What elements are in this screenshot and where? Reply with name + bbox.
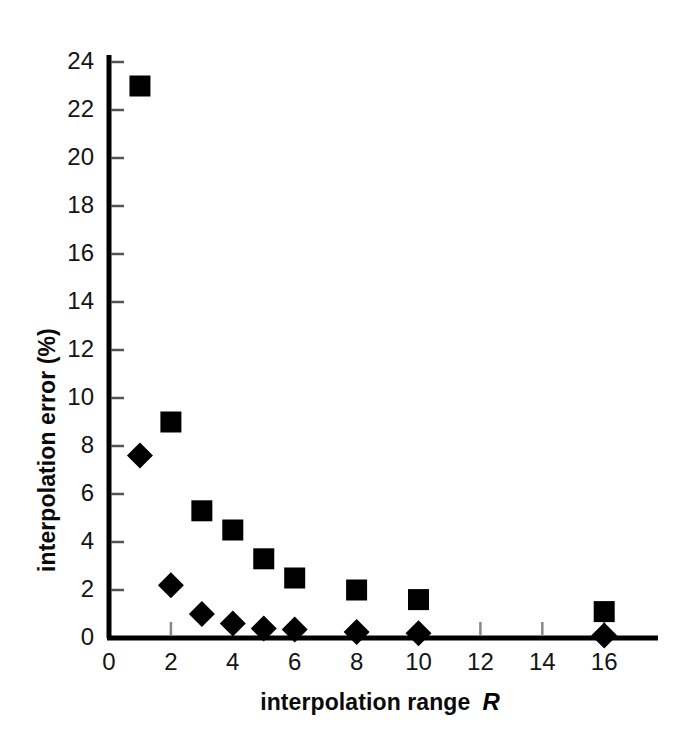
series-diamonds-markers	[127, 443, 617, 649]
data-point-diamond	[591, 623, 617, 649]
x-axis-tick-label: 10	[399, 648, 439, 676]
axis-lines	[107, 55, 658, 638]
data-point-diamond	[406, 620, 432, 646]
x-axis-tick-label: 0	[89, 648, 129, 676]
y-axis-tick-label: 10	[48, 383, 94, 411]
y-axis-tick-label: 16	[48, 239, 94, 267]
data-point-square	[222, 520, 243, 541]
x-axis-tick-label: 8	[337, 648, 377, 676]
data-point-square	[346, 580, 367, 601]
data-point-diamond	[189, 601, 215, 627]
y-axis-tick-label: 2	[48, 575, 94, 603]
data-point-diamond	[220, 611, 246, 637]
x-axis-tick-label: 12	[460, 648, 500, 676]
x-axis-label-container: interpolation rangeR	[100, 688, 660, 716]
x-axis-tick-label: 2	[151, 648, 191, 676]
data-point-diamond	[344, 619, 370, 645]
data-point-square	[594, 601, 615, 622]
data-point-diamond	[158, 572, 184, 598]
y-axis-tick-label: 18	[48, 191, 94, 219]
data-point-square	[191, 500, 212, 521]
y-axis-tick-label: 20	[48, 143, 94, 171]
y-axis-ticks	[111, 62, 124, 590]
series-squares-markers	[129, 76, 614, 623]
data-point-square	[253, 548, 274, 569]
data-point-diamond	[127, 443, 153, 469]
data-point-square	[129, 76, 150, 97]
x-axis-label-variable: R	[470, 688, 499, 715]
y-axis-tick-label: 4	[48, 527, 94, 555]
x-axis-tick-label: 6	[275, 648, 315, 676]
x-axis-tick-label: 16	[584, 648, 624, 676]
y-axis-tick-label: 22	[48, 95, 94, 123]
data-point-square	[160, 412, 181, 433]
y-axis-tick-label: 24	[48, 47, 94, 75]
y-axis-tick-label: 14	[48, 287, 94, 315]
data-point-square	[284, 568, 305, 589]
y-axis-tick-label: 6	[48, 479, 94, 507]
y-axis-tick-label: 12	[48, 335, 94, 363]
y-axis-tick-label: 0	[48, 623, 94, 651]
x-axis-label: interpolation range	[260, 689, 470, 715]
scatter-plot-canvas	[0, 0, 680, 749]
data-point-square	[408, 589, 429, 610]
x-axis-tick-label: 4	[213, 648, 253, 676]
chart-figure: interpolation error (%) 0246810121416182…	[0, 0, 680, 749]
y-axis-tick-label: 8	[48, 431, 94, 459]
x-axis-tick-label: 14	[522, 648, 562, 676]
